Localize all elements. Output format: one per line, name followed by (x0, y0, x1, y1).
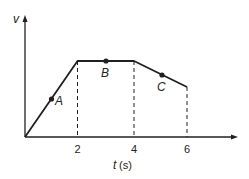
point-a (49, 96, 54, 101)
x-tick-2: 2 (74, 143, 80, 155)
x-axis-label-unit: (s) (119, 159, 132, 171)
x-tick-4: 4 (131, 143, 137, 155)
velocity-time-graph: A B C v 2 4 6 t (s) (0, 0, 249, 179)
point-a-label: A (54, 94, 63, 108)
point-c (159, 72, 164, 77)
x-axis-label-var: t (113, 158, 117, 172)
point-b (103, 58, 108, 63)
point-b-label: B (101, 66, 109, 80)
y-axis-label: v (13, 12, 20, 26)
y-axis-arrow-icon (23, 15, 28, 22)
x-tick-6: 6 (184, 143, 190, 155)
x-axis-arrow-icon (231, 135, 238, 140)
point-c-label: C (157, 80, 166, 94)
